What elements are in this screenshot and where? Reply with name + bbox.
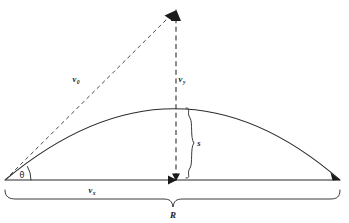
label-max-height: s bbox=[196, 138, 201, 148]
launch-angle-arc bbox=[28, 167, 32, 181]
label-horizontal-velocity-subscript: x bbox=[92, 190, 96, 196]
label-vertical-velocity: vy bbox=[179, 74, 186, 85]
label-initial-velocity: v0 bbox=[72, 74, 79, 85]
label-vertical-velocity-subscript: y bbox=[182, 79, 186, 85]
trajectory-parabola bbox=[5, 109, 340, 180]
initial-velocity-vector-line bbox=[5, 14, 172, 180]
label-horizontal-velocity: vx bbox=[88, 185, 95, 196]
label-range: R bbox=[169, 210, 176, 220]
label-launch-angle: θ bbox=[20, 171, 25, 180]
trajectory-end-arrowhead bbox=[331, 173, 341, 181]
figure-canvas: v0 vy vx θ s R bbox=[0, 0, 349, 223]
label-initial-velocity-subscript: 0 bbox=[77, 79, 80, 85]
range-brace bbox=[5, 190, 340, 207]
projectile-motion-diagram: v0 vy vx θ s R bbox=[0, 0, 349, 223]
max-height-brace bbox=[186, 108, 194, 178]
